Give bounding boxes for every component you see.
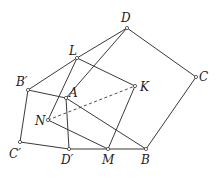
label-C: C <box>199 70 208 84</box>
segment-L-K <box>77 58 135 86</box>
point-Dp <box>67 147 70 150</box>
label-D: D <box>120 11 131 25</box>
segment-Dp-Cp <box>20 142 69 149</box>
point-C <box>194 75 197 78</box>
point-Cp <box>18 140 21 143</box>
point-B <box>144 147 147 150</box>
label-L: L <box>68 44 77 58</box>
point-M <box>106 147 109 150</box>
label-A: A <box>68 86 78 100</box>
segment-A-B <box>66 98 146 149</box>
label-N: N <box>34 114 46 128</box>
segment-A-Dp <box>66 98 69 149</box>
segment-N-M <box>48 120 108 149</box>
point-D <box>125 26 128 29</box>
label-Cp: C′ <box>9 147 21 161</box>
label-Bp: B′ <box>15 75 28 89</box>
segment-D-L <box>77 28 127 58</box>
geometry-diagram: DCBMD′C′B′LANK <box>0 0 219 181</box>
label-B: B <box>140 153 150 167</box>
segment-Cp-Bp <box>20 90 28 142</box>
label-K: K <box>139 80 150 94</box>
label-M: M <box>101 153 115 167</box>
point-A <box>64 96 67 99</box>
point-N <box>46 118 49 121</box>
segment-C-B <box>146 77 196 149</box>
label-Dp: D′ <box>60 153 74 167</box>
point-K <box>133 84 136 87</box>
segment-D-C <box>127 28 196 77</box>
